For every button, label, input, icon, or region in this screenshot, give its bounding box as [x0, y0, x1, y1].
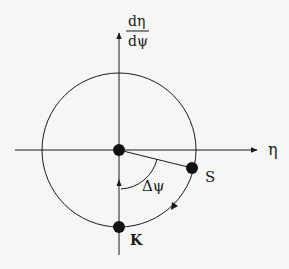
point-s-label: S: [205, 168, 215, 186]
point-s: [186, 162, 198, 174]
angle-label: Δψ: [142, 177, 165, 195]
x-axis-label: η: [268, 140, 278, 159]
point-k: [113, 221, 125, 233]
center-point: [113, 144, 125, 156]
phase-diagram: dη dψ η S K Δψ: [0, 0, 289, 269]
y-axis-label-denominator: dψ: [128, 33, 148, 49]
point-k-label: K: [130, 232, 143, 248]
delta-psi-arrowhead: [117, 179, 122, 186]
y-axis-label-numerator: dη: [128, 13, 145, 29]
